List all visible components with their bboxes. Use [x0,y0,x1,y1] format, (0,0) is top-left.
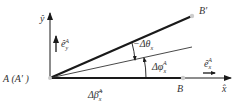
point-b-label: B [177,83,183,94]
point-b-prime [190,14,194,18]
e-x-label: êxA [204,57,212,70]
segment-ab-prime [50,16,192,78]
origin-label: A (A′ ) [2,73,30,85]
delta-beta-label: Δβ̂xA [87,88,103,102]
y-axis-label: ŷ [39,13,45,24]
angle-phi-label: ΔφxA [151,60,167,74]
x-axis-label: x̂ [221,83,227,94]
point-b-prime-label: B′ [199,5,208,16]
angle-theta-label: −Δθx [133,38,154,51]
e-y-label: êyA [61,38,69,51]
angle-phi-arc [144,58,146,78]
rotation-diagram: ŷ êyA x̂ êxA ΔφxA −Δθx A (A′ ) B B′ Δβ̂x… [0,0,241,108]
point-a [48,76,52,80]
point-b [181,76,185,80]
intermediate-line [50,47,192,78]
